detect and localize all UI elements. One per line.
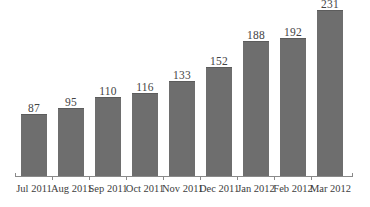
bar-rect[interactable]: [58, 108, 84, 177]
bar-value-label: 110: [99, 85, 116, 97]
bar-value-label: 133: [173, 69, 191, 81]
x-axis-label: Jan 2012: [236, 182, 276, 195]
bar-rect[interactable]: [243, 41, 269, 177]
bar-value-label: 87: [28, 102, 40, 114]
bar-rect[interactable]: [169, 81, 195, 177]
bar-rect[interactable]: [21, 114, 47, 177]
x-axis-tick: [200, 177, 201, 180]
x-axis-tick: [52, 177, 53, 180]
x-axis-label: Jul 2011: [14, 182, 54, 195]
x-axis-label: Feb 2012: [273, 182, 313, 195]
bar-value-label: 188: [247, 29, 265, 41]
x-axis-label: Aug 2011: [51, 182, 91, 195]
bar-value-label: 152: [210, 55, 228, 67]
bar-value-label: 95: [65, 96, 77, 108]
x-axis-label: Sep 2011: [88, 182, 128, 195]
x-axis-label: Dec 2011: [199, 182, 239, 195]
plot-area: 87 95 110 116 133 152 188 192: [0, 0, 370, 177]
x-axis-labels: Jul 2011 Aug 2011 Sep 2011 Oct 2011 Nov …: [0, 182, 370, 200]
x-axis-line: [15, 176, 353, 177]
bar-rect[interactable]: [95, 97, 121, 177]
x-axis-label: Oct 2011: [125, 182, 165, 195]
x-axis-label: Mar 2012: [310, 182, 350, 195]
x-axis-right-cap: [352, 173, 353, 177]
bar-chart: 87 95 110 116 133 152 188 192: [0, 0, 370, 207]
x-axis-label: Nov 2011: [162, 182, 202, 195]
bar-rect[interactable]: [280, 38, 306, 177]
x-axis-left-cap: [15, 173, 16, 177]
x-axis-tick: [126, 177, 127, 180]
x-axis-tick: [163, 177, 164, 180]
bar-rect[interactable]: [317, 10, 343, 177]
bar-value-label: 231: [321, 0, 339, 10]
bar-value-label: 116: [136, 81, 153, 93]
bar-rect[interactable]: [132, 93, 158, 177]
bar-rect[interactable]: [206, 67, 232, 177]
bar-value-label: 192: [284, 26, 302, 38]
x-axis-tick: [237, 177, 238, 180]
x-axis-tick: [311, 177, 312, 180]
x-axis-tick: [89, 177, 90, 180]
x-axis-tick: [274, 177, 275, 180]
